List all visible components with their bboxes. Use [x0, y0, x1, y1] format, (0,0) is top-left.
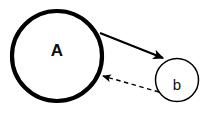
diagram-svg: A b [0, 0, 215, 123]
node-b-label: b [173, 76, 181, 93]
diagram-canvas: A b [0, 0, 215, 123]
node-a-label: A [51, 41, 63, 60]
